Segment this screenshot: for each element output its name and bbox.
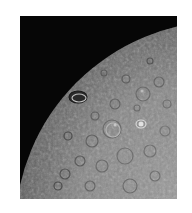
planet-surface-photo [20, 16, 177, 199]
planet-surface-image [20, 16, 177, 199]
